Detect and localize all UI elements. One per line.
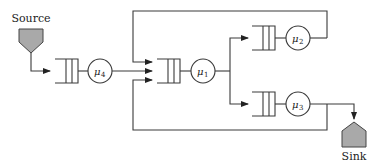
source-label: Source bbox=[11, 12, 50, 25]
sink-label: Sink bbox=[342, 150, 367, 163]
server-3: μ 3 bbox=[286, 92, 310, 116]
server-3-symbol: μ bbox=[292, 99, 299, 110]
sink-node: Sink bbox=[342, 122, 367, 163]
queueing-network-diagram: Source μ 4 μ 1 μ 2 bbox=[0, 0, 386, 167]
queue-3 bbox=[252, 92, 286, 116]
sink-pentagon-icon bbox=[342, 122, 366, 147]
edge-server1-to-queue2 bbox=[230, 38, 248, 71]
server-4-subscript: 4 bbox=[101, 71, 106, 79]
server-2: μ 2 bbox=[286, 26, 310, 50]
edge-server1-to-queue3 bbox=[230, 71, 248, 104]
edge-source-to-queue4 bbox=[31, 53, 50, 71]
queue-2 bbox=[252, 26, 286, 50]
server-4: μ 4 bbox=[88, 59, 112, 83]
server-4-symbol: μ bbox=[94, 66, 101, 77]
server-2-symbol: μ bbox=[292, 33, 299, 44]
server-1-symbol: μ bbox=[197, 66, 204, 77]
source-node: Source bbox=[11, 12, 50, 53]
server-1: μ 1 bbox=[191, 59, 215, 83]
server-1-subscript: 1 bbox=[204, 71, 208, 79]
queue-4 bbox=[55, 59, 88, 83]
edge-server3-to-sink bbox=[310, 104, 354, 119]
source-pentagon-icon bbox=[19, 29, 43, 53]
queue-1 bbox=[157, 59, 191, 83]
server-2-subscript: 2 bbox=[299, 38, 303, 46]
server-3-subscript: 3 bbox=[299, 104, 303, 112]
